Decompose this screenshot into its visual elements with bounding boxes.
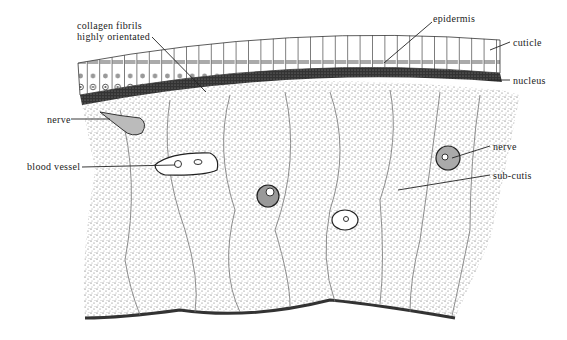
label-cuticle: cuticle [513,37,542,48]
sub-cutis-region [80,81,520,318]
label-nucleus: nucleus [513,75,546,86]
label-sub-cutis: sub-cutis [493,170,532,181]
skin-cross-section-diagram [0,0,567,340]
nerve-center [257,185,279,207]
label-nerve-left: nerve [47,114,71,125]
label-epidermis: epidermis [433,13,475,24]
blood-vessel-small [332,210,358,230]
label-collagen-line1: collagen fibrils [77,20,142,31]
label-collagen-line2: highly orientated [77,31,150,42]
label-blood-vessel: blood vessel [27,161,80,172]
label-nerve-right: nerve [493,141,517,152]
nerve-right [436,146,460,170]
